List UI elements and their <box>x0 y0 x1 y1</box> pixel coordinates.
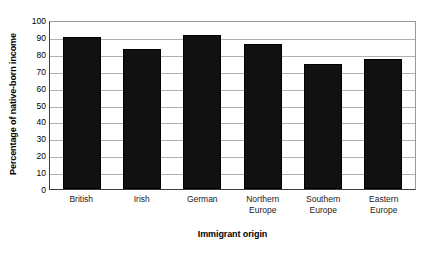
bar-british <box>63 37 101 189</box>
bar-southern-europe <box>304 64 342 189</box>
x-tick-label-german: German <box>172 194 233 228</box>
bar-chart-figure: Percentage of native-born income 100 90 … <box>0 0 427 253</box>
bar-slot <box>293 22 353 189</box>
y-tick-label: 90 <box>18 33 46 42</box>
y-tick-label: 60 <box>18 84 46 93</box>
bar-irish <box>123 49 161 189</box>
y-tick-label: 0 <box>18 186 46 195</box>
x-tick-label-eastern-europe: Eastern Europe <box>354 194 415 228</box>
bar-slot <box>353 22 413 189</box>
x-tick-label-southern-europe: Southern Europe <box>293 194 354 228</box>
bar-slot <box>112 22 172 189</box>
y-tick-label: 70 <box>18 67 46 76</box>
x-tick-label-line: Europe <box>233 205 294 216</box>
bar-eastern-europe <box>364 59 402 189</box>
x-axis-tick-label-group: British Irish German Northern Europe Sou… <box>49 194 416 228</box>
y-tick-label: 80 <box>18 50 46 59</box>
x-tick-label-line: Europe <box>354 205 415 216</box>
y-tick-label: 10 <box>18 169 46 178</box>
y-tick-label: 30 <box>18 135 46 144</box>
y-tick-label: 20 <box>18 152 46 161</box>
y-tick-label: 50 <box>18 101 46 110</box>
x-tick-label-line: Irish <box>112 194 173 205</box>
x-tick-label-line: Southern <box>293 194 354 205</box>
x-tick-label-line: British <box>51 194 112 205</box>
bar-slot <box>172 22 232 189</box>
bar-slot <box>233 22 293 189</box>
x-tick-label-irish: Irish <box>112 194 173 228</box>
y-axis-tick-label-group: 100 90 80 70 60 50 40 30 20 10 0 <box>18 21 46 190</box>
bar-slot <box>52 22 112 189</box>
x-tick-label-line: Europe <box>293 205 354 216</box>
x-tick-label-line: Eastern <box>354 194 415 205</box>
bar-german <box>183 35 221 189</box>
y-tick-label: 40 <box>18 118 46 127</box>
x-tick-label-line: Northern <box>233 194 294 205</box>
x-tick-label-british: British <box>51 194 112 228</box>
x-tick-label-northern-europe: Northern Europe <box>233 194 294 228</box>
bar-northern-europe <box>244 44 282 189</box>
bars-layer <box>50 22 415 189</box>
y-tick-label: 100 <box>18 17 46 26</box>
x-tick-label-line: German <box>172 194 233 205</box>
x-axis-title: Immigrant origin <box>49 229 416 239</box>
plot-area <box>49 21 416 190</box>
